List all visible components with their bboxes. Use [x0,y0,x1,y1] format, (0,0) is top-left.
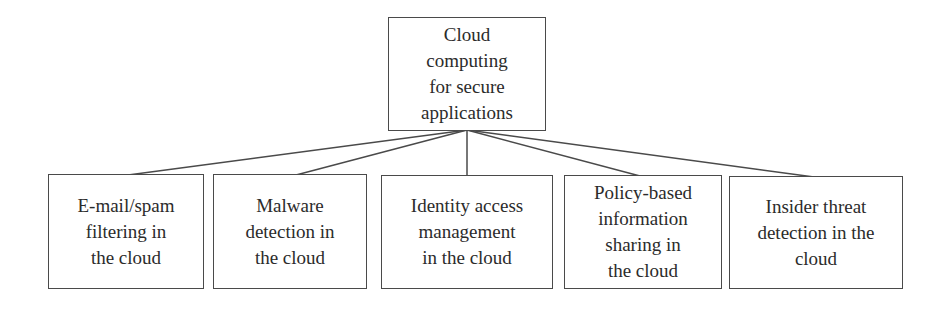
connector-insider [467,130,814,177]
node-insider-threat-detection: Insider threat detection in the cloud [729,176,903,289]
connector-email-spam [128,130,467,175]
node-email-spam-filtering: E-mail/spam filtering in the cloud [48,174,204,289]
node-identity-access-management: Identity access management in the cloud [381,175,553,289]
root-node: Cloud computing for secure applications [388,17,546,131]
root-node-label: Cloud computing for secure applications [421,22,513,126]
node-label: E-mail/spam filtering in the cloud [77,193,174,271]
node-policy-based-sharing: Policy-based information sharing in the … [564,175,722,289]
node-label: Insider threat detection in the cloud [757,194,874,272]
node-label: Identity access management in the cloud [411,193,523,271]
node-label: Malware detection in the cloud [245,193,334,271]
node-label: Policy-based information sharing in the … [594,180,692,284]
node-malware-detection: Malware detection in the cloud [213,174,367,289]
connector-policy [467,130,640,176]
connector-malware [296,130,467,175]
